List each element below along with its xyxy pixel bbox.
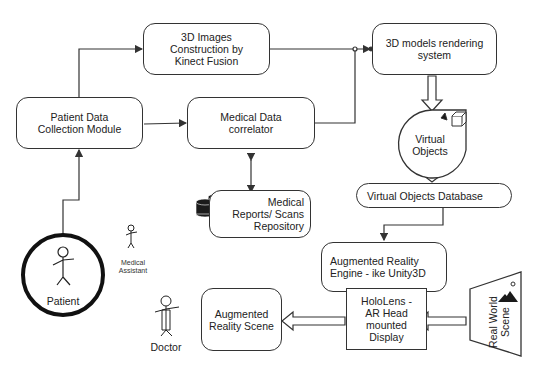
connector-patient-to-kinect	[79, 49, 142, 98]
doctor-label: Doctor	[141, 341, 191, 353]
medical-repository-box: MedicalReports/ ScansRepository	[209, 190, 311, 238]
patient-data-module-box: Patient DataCollection Module	[16, 97, 143, 149]
kinect-fusion-box: 3D ImagesConstruction byKinect Fusion	[143, 23, 270, 75]
connector-patient-to-module	[63, 150, 79, 240]
virtual-objects-label: VirtualObjects	[405, 133, 455, 157]
ar-engine-box: Augmented RealityEngine - ike Unity3D	[321, 242, 447, 292]
hollow-arrow-hololens-to-scene	[282, 312, 345, 330]
ar-scene-box: AugmentedReality Scene	[201, 288, 282, 351]
hollow-arrow-render-to-vo	[422, 76, 442, 111]
rendering-system-box: 3D models renderingsystem	[372, 23, 497, 75]
virtual-objects-database-box: Virtual Objects Database	[356, 183, 512, 208]
hololens-box: HoloLens -AR HeadmountedDisplay	[346, 288, 427, 350]
medical-assistant-label: MedicalAssistant	[113, 259, 153, 275]
connector-db-to-engine	[384, 207, 443, 240]
connector-module-to-correlator	[144, 123, 186, 124]
medical-data-correlator-box: Medical Datacorrelator	[187, 97, 315, 149]
patient-label: Patient	[33, 295, 93, 307]
real-world-scene-label: Real WorldScene	[487, 287, 511, 357]
connector-correlator-to-rendering	[315, 49, 355, 123]
doctor-figure-icon	[155, 296, 179, 336]
medical-assistant-icon	[126, 225, 137, 248]
